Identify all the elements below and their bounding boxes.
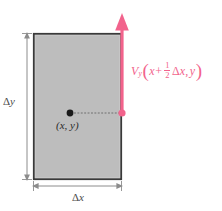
figure-canvas xyxy=(0,0,222,211)
fraction-denominator: 2 xyxy=(164,70,170,80)
dimension-line-vertical xyxy=(22,32,32,181)
velocity-fraction: 12 xyxy=(164,61,170,80)
dimension-line-horizontal xyxy=(32,181,123,191)
velocity-delta-symbol: Δ xyxy=(172,65,180,77)
velocity-comma: , xyxy=(185,65,188,77)
delta-x-label: Δx xyxy=(72,192,84,203)
fraction-numerator: 1 xyxy=(164,61,170,70)
edge-midpoint-dot xyxy=(118,109,125,116)
velocity-close-paren: ) xyxy=(196,61,202,80)
delta-y-variable: y xyxy=(10,95,15,107)
control-volume-rectangle xyxy=(34,34,121,179)
center-point-label: (x, y) xyxy=(56,120,79,131)
velocity-operator: + xyxy=(155,65,162,77)
velocity-open-paren: ( xyxy=(142,61,148,80)
velocity-arg-x: x xyxy=(149,65,154,77)
delta-x-variable: x xyxy=(79,191,84,203)
velocity-arg-y: y xyxy=(190,65,195,77)
control-volume-figure: Δy Δx (x, y) Vy(x+12Δx,y) xyxy=(0,0,222,211)
center-point-dot xyxy=(67,110,74,117)
delta-y-label: Δy xyxy=(3,96,15,107)
velocity-label: Vy(x+12Δx,y) xyxy=(131,61,203,80)
velocity-subscript: y xyxy=(138,70,141,78)
